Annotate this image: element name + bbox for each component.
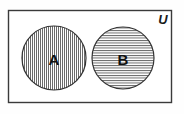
set-a-label: A xyxy=(49,51,60,68)
venn-diagram-canvas: A B U xyxy=(0,0,184,114)
set-b-label: B xyxy=(118,51,129,68)
venn-diagram-svg: A B U xyxy=(0,0,184,114)
universe-label: U xyxy=(158,12,168,27)
